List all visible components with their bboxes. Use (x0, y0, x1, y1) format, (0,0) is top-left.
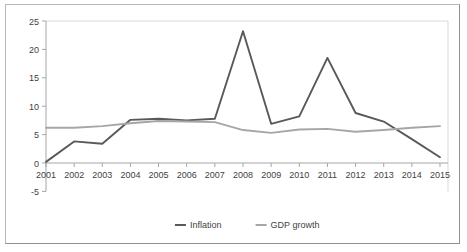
series-inflation (46, 31, 440, 162)
series-gdp-growth (46, 121, 440, 133)
legend-label: Inflation (190, 220, 222, 230)
x-axis-tick-label: 2010 (289, 170, 309, 180)
plot-area: -50510152025 200120022003200420052006200… (0, 0, 467, 252)
x-axis-labels: 2001200220032004200520062007200820092010… (36, 170, 450, 180)
y-axis-tick-label: 0 (34, 159, 39, 169)
y-axis-tick-label: 15 (29, 73, 39, 83)
x-axis-tick-label: 2013 (374, 170, 394, 180)
x-axis-tick-label: 2009 (261, 170, 281, 180)
x-axis-tick-label: 2011 (318, 170, 337, 180)
y-axis-ticks (42, 21, 46, 191)
line-chart: -50510152025 200120022003200420052006200… (0, 0, 467, 252)
x-axis-tick-label: 2004 (120, 170, 140, 180)
x-axis-tick-label: 2007 (205, 170, 225, 180)
x-axis-tick-label: 2015 (430, 170, 450, 180)
x-axis-tick-label: 2005 (149, 170, 169, 180)
chart-legend: InflationGDP growth (175, 220, 320, 230)
x-axis-tick-label: 2012 (346, 170, 366, 180)
legend-label: GDP growth (271, 220, 320, 230)
series-lines (46, 31, 440, 162)
x-axis-ticks (46, 163, 440, 167)
y-axis-tick-label: -5 (31, 187, 39, 197)
y-axis-tick-label: 25 (29, 17, 39, 27)
x-axis-tick-label: 2008 (233, 170, 253, 180)
x-axis-tick-label: 2006 (177, 170, 197, 180)
x-axis-tick-label: 2014 (402, 170, 422, 180)
x-axis-tick-label: 2003 (92, 170, 112, 180)
y-axis-tick-label: 20 (29, 45, 39, 55)
y-axis-tick-label: 10 (29, 102, 39, 112)
y-axis-tick-label: 5 (34, 130, 39, 140)
chart-figure: -50510152025 200120022003200420052006200… (0, 0, 467, 252)
x-axis-tick-label: 2001 (36, 170, 56, 180)
x-axis-tick-label: 2002 (64, 170, 84, 180)
